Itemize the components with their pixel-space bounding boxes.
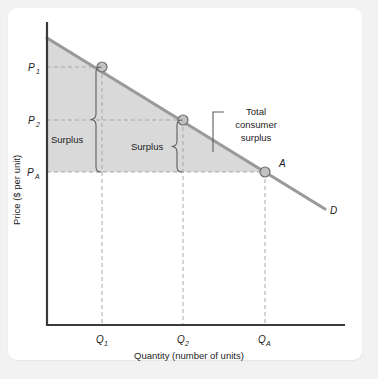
total-consumer-surplus-line-2: consumer	[235, 119, 277, 130]
point-marker-a	[260, 167, 270, 177]
x-tick-q1-label: Q	[96, 334, 104, 345]
y-tick-p2-subscript: 2	[35, 121, 40, 128]
x-tick-qa-label: Q	[258, 334, 266, 345]
point-a-label: A	[278, 158, 286, 169]
total-consumer-surplus-label: Total consumer surplus	[235, 106, 277, 143]
y-tick-p1-label: P	[28, 62, 35, 73]
x-axis-title: Quantity (number of units)	[134, 350, 244, 361]
y-tick-p1-subscript: 1	[36, 68, 40, 75]
y-tick-p2-label: P	[28, 115, 35, 126]
x-tick-q2: Q 2	[177, 334, 189, 347]
x-tick-qa: Q A	[258, 334, 271, 347]
x-tick-q2-subscript: 2	[184, 340, 189, 347]
surplus-label-1: Surplus	[51, 134, 83, 145]
total-consumer-surplus-line-1: Total	[246, 106, 266, 117]
demand-curve-label: D	[330, 205, 337, 216]
y-tick-p1: P 1	[28, 62, 40, 75]
y-tick-p2: P 2	[28, 115, 40, 128]
y-tick-pa-label: P	[27, 167, 34, 178]
y-tick-pa-subscript: A	[34, 173, 40, 180]
y-tick-pa: P A	[27, 167, 40, 180]
surplus-label-2: Surplus	[131, 141, 163, 152]
x-tick-q1: Q 1	[96, 334, 108, 347]
y-axis-title: Price ($ per unit)	[11, 155, 22, 225]
x-tick-qa-subscript: A	[265, 340, 271, 347]
consumer-surplus-chart: P 1 P 2 P A Q 1 Q 2 Q A Quantity (number…	[0, 0, 378, 379]
x-tick-q2-label: Q	[177, 334, 185, 345]
x-tick-q1-subscript: 1	[104, 340, 108, 347]
total-consumer-surplus-line-3: surplus	[241, 132, 272, 143]
